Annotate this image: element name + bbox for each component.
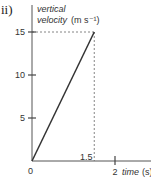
x-marker-label: 1.5 — [80, 152, 93, 162]
axes — [32, 5, 151, 161]
origin-label: 0 — [28, 166, 33, 176]
x-tick-label: 2 — [112, 167, 117, 177]
series-line-vertical-velocity — [32, 32, 94, 161]
chart: ii) 510152 vertical velocity(m s⁻¹) 0 1.… — [0, 0, 151, 178]
y-axis-title-word: velocity — [37, 15, 68, 25]
x-axis-unit: (s) — [142, 167, 151, 177]
y-axis-unit: (m s⁻¹) — [71, 15, 100, 25]
ticks: 510152 — [15, 27, 118, 177]
y-axis-title-line2: velocity(m s⁻¹) — [37, 15, 100, 25]
y-tick-label: 10 — [15, 70, 25, 80]
x-axis-title: time(s) — [122, 167, 151, 177]
series — [32, 32, 94, 161]
y-axis-title-line1: vertical — [37, 4, 67, 14]
part-label: ii) — [1, 2, 13, 17]
x-axis-title-word: time — [122, 167, 139, 177]
y-tick-label: 5 — [20, 113, 25, 123]
y-tick-label: 15 — [15, 27, 25, 37]
